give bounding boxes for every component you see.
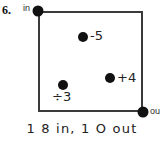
operation-dot-subtract-five (78, 32, 88, 42)
figure-caption: 1 8 in, 1 O out (0, 122, 164, 135)
input-label: in (23, 4, 30, 13)
output-node-dot (138, 107, 149, 118)
problem-number: 6. (2, 4, 11, 16)
operation-label-subtract-five: -5 (90, 29, 103, 42)
operation-dot-add-four (105, 73, 115, 83)
input-node-dot (33, 6, 44, 17)
worksheet-problem-figure: 6. in ou -5 +4 ÷3 1 8 in, 1 O out (0, 0, 164, 146)
operation-label-add-four: +4 (117, 71, 136, 84)
output-label: ou (150, 107, 160, 116)
operation-label-divide-three: ÷3 (52, 90, 71, 103)
